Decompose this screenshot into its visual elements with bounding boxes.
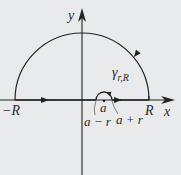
a-minus-r-label: a − r	[84, 115, 111, 128]
a-label: a	[100, 101, 107, 114]
direction-arrow-left-icon	[41, 97, 49, 103]
leader-a-minus-r	[94, 101, 96, 115]
y-axis-label: y	[68, 9, 74, 23]
R-label: R	[145, 104, 154, 118]
contour-diagram: y x −R R a a − r a + r γr,R	[0, 0, 181, 175]
minus-R-label: −R	[2, 104, 20, 118]
contour-subscript: r,R	[118, 72, 129, 83]
a-plus-r-label: a + r	[116, 113, 143, 126]
direction-arrow-right-icon	[114, 97, 122, 103]
contour-label: γr,R	[112, 66, 129, 83]
direction-arrow-arc-icon	[132, 50, 141, 59]
diagram-graphics	[0, 0, 181, 175]
x-axis-label: x	[164, 105, 170, 119]
